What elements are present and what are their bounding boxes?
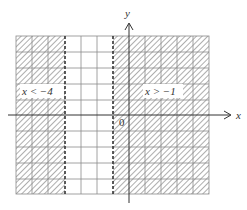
y-axis-label: y	[124, 7, 130, 19]
right-region-label: x > −1	[144, 85, 176, 97]
inequality-graph: x y 0 x < −4 x > −1	[0, 0, 247, 210]
left-region-label: x < −4	[21, 85, 53, 97]
x-axis-label: x	[235, 109, 241, 121]
origin-label: 0	[119, 116, 125, 128]
